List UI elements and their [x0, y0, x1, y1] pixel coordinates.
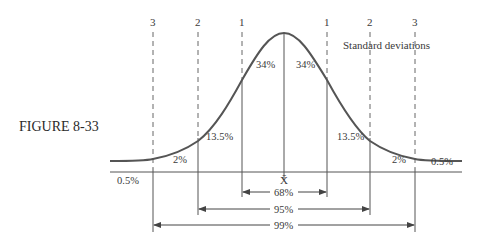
interval-95-label: 95%	[274, 204, 294, 215]
interval-99-label: 99%	[274, 220, 294, 231]
region-right-13: 13.5%	[337, 131, 364, 142]
region-left-tail: 0.5%	[117, 175, 139, 186]
legend-standard-deviations: Standard deviations	[343, 39, 430, 51]
interval-68-label: 68%	[274, 187, 294, 198]
solid-interval-lines	[153, 33, 415, 232]
region-right-34: 34%	[296, 59, 316, 70]
region-right-2: 2%	[392, 154, 406, 165]
bell-curve	[110, 33, 462, 161]
normal-distribution-diagram: FIGURE 8-33 3 2 1 1 2 3 Standard deviati…	[0, 0, 482, 241]
sd-label-neg1: 1	[239, 16, 245, 28]
region-left-13: 13.5%	[206, 131, 233, 142]
sd-label-neg2: 2	[195, 16, 201, 28]
sd-label-pos2: 2	[367, 16, 373, 28]
region-left-2: 2%	[173, 154, 187, 165]
figure-label: FIGURE 8-33	[19, 119, 99, 134]
sd-label-pos3: 3	[412, 16, 418, 28]
sd-label-neg3: 3	[150, 16, 156, 28]
region-left-34: 34%	[256, 59, 276, 70]
region-right-tail: 0.5%	[431, 156, 453, 167]
mean-label: X̄	[280, 174, 288, 186]
sd-label-pos1: 1	[324, 16, 330, 28]
